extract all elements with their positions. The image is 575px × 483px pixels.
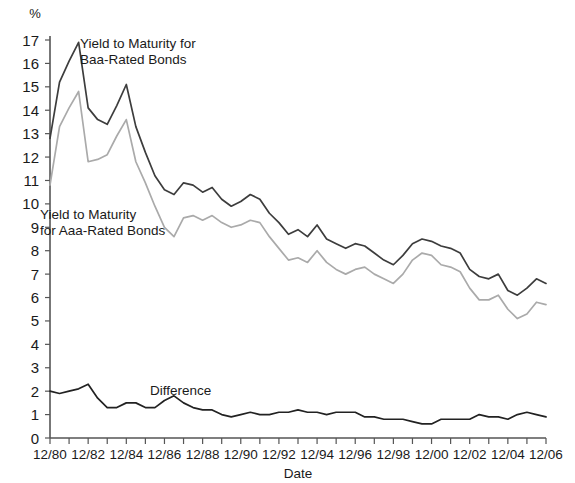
x-tick-label: 12/86 (148, 447, 182, 462)
y-tick-label: 5 (31, 312, 39, 329)
yield-curve-chart: % 01234567891011121314151617 12/8012/821… (0, 0, 575, 483)
x-tick-label: 12/84 (109, 447, 143, 462)
x-tick-label: 12/02 (453, 447, 487, 462)
x-axis-title: Date (284, 466, 313, 481)
x-tick-label: 12/82 (71, 447, 105, 462)
y-tick-label: 2 (31, 383, 39, 400)
x-tick-label: 12/94 (300, 447, 334, 462)
annotation-line: for Aaa-Rated Bonds (40, 223, 166, 238)
y-tick-label: 3 (31, 359, 39, 376)
x-tick-label: 12/04 (491, 447, 525, 462)
annotation-line: Yield to Maturity for (80, 36, 196, 51)
y-tick-label: 16 (22, 55, 39, 72)
x-tick-label: 12/96 (338, 447, 372, 462)
y-tick-label: 1 (31, 406, 39, 423)
y-tick-label: 4 (31, 336, 39, 353)
annotation-line: Baa-Rated Bonds (80, 52, 187, 67)
y-tick-label: 14 (22, 102, 39, 119)
x-tick-label: 12/90 (224, 447, 258, 462)
y-axis-unit-label: % (29, 6, 41, 21)
y-tick-label: 12 (22, 149, 39, 166)
y-tick-label: 17 (22, 32, 39, 49)
annotation-difference-label: Difference (150, 383, 211, 398)
chart-background (0, 0, 575, 483)
x-tick-label: 12/88 (186, 447, 220, 462)
y-tick-label: 9 (31, 219, 39, 236)
y-tick-label: 7 (31, 266, 39, 283)
annotation-baa-label: Yield to Maturity forBaa-Rated Bonds (80, 36, 196, 67)
x-tick-label: 12/80 (33, 447, 67, 462)
y-tick-label: 13 (22, 125, 39, 142)
y-tick-label: 8 (31, 242, 39, 259)
y-tick-label: 10 (22, 195, 39, 212)
y-tick-label: 11 (23, 172, 39, 189)
annotation-line: Yield to Maturity (40, 207, 137, 222)
chart-canvas: % 01234567891011121314151617 12/8012/821… (0, 0, 575, 483)
x-tick-label: 12/92 (262, 447, 296, 462)
x-tick-label: 12/00 (415, 447, 449, 462)
x-tick-label: 12/98 (376, 447, 410, 462)
y-tick-label: 0 (31, 430, 39, 447)
y-tick-label: 6 (31, 289, 39, 306)
x-tick-label: 12/06 (529, 447, 563, 462)
annotation-line: Difference (150, 383, 211, 398)
y-tick-label: 15 (22, 78, 39, 95)
